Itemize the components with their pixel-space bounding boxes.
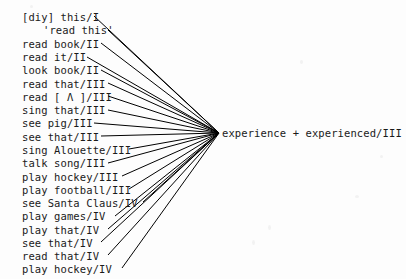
source-label: play games/IV (22, 211, 105, 222)
source-label: see that/III (22, 132, 99, 143)
source-label: read book/II (22, 39, 99, 50)
convergence-target-label: experience + experienced/III (222, 128, 402, 139)
source-label: play hockey/III (22, 172, 118, 183)
source-label: look book/II (22, 65, 99, 76)
source-label: 'read this' (43, 25, 114, 36)
source-label: play football/III (22, 185, 131, 196)
source-label: read it/II (22, 52, 86, 63)
source-label: see that/IV (22, 238, 93, 249)
source-label: sing Alouette/III (22, 145, 131, 156)
source-label: read that/IV (22, 251, 99, 262)
source-label-list: [diy] this/I'read this'read book/IIread … (0, 0, 406, 279)
diagram-canvas: [diy] this/I'read this'read book/IIread … (0, 0, 406, 279)
source-label: read [ Λ ]/III (22, 92, 112, 103)
source-label: play that/IV (22, 225, 99, 236)
source-label: see pig/III (22, 118, 93, 129)
source-label: sing that/III (22, 105, 105, 116)
source-label: [diy] this/I (22, 12, 99, 23)
source-label: read that/III (22, 79, 105, 90)
source-label: see Santa Claus/IV (22, 198, 138, 209)
source-label: talk song/III (22, 158, 105, 169)
source-label: play hockey/IV (22, 264, 112, 275)
